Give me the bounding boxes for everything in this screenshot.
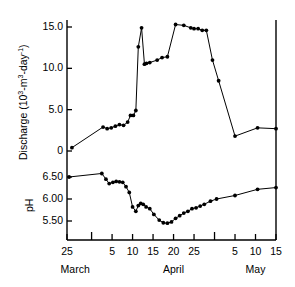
y-axis-title-text: Discharge (103-m3-day-1) — [17, 44, 29, 160]
y-axis-ticks-ph — [67, 177, 72, 221]
y-tick-label-discharge: 15.0 — [43, 20, 63, 32]
y-axis-title-discharge: Discharge (103-m3-day-1) — [17, 44, 29, 160]
y-axis-ticks-discharge — [67, 27, 72, 151]
series-discharge — [70, 23, 278, 150]
x-tick-label: 25 — [180, 245, 208, 257]
x-tick-label: 25 — [53, 245, 81, 257]
y-axis-title-ph: pH — [23, 199, 35, 212]
y-tick-label-ph: 6.50 — [43, 170, 63, 182]
y-tick-label-ph: 6.00 — [43, 192, 63, 204]
y-tick-label-discharge: 5.0 — [48, 103, 63, 115]
chart-svg — [0, 0, 295, 287]
x-axis-month-label: May — [232, 263, 280, 275]
y-tick-label-ph: 5.50 — [43, 214, 63, 226]
x-tick-label: 15 — [262, 245, 290, 257]
figure-container: Discharge (103-m3-day-1) pH 15.010.05.00… — [0, 0, 295, 287]
y-tick-label-discharge: 10.0 — [43, 61, 63, 73]
series-ph — [67, 172, 278, 226]
y-tick-label-discharge: 0 — [57, 144, 63, 156]
x-axis-month-label: April — [150, 263, 198, 275]
x-axis-ticks — [67, 232, 276, 240]
x-axis-month-label: March — [51, 263, 99, 275]
